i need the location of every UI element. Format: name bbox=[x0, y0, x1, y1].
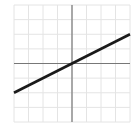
coordinate-graph bbox=[0, 0, 133, 133]
